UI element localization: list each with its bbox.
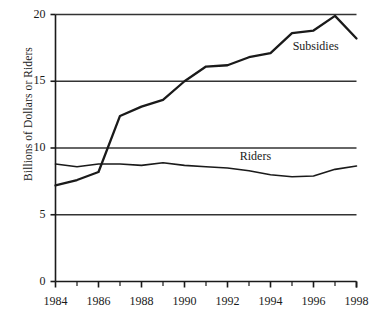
x-tick-label-1994: 1994 <box>251 294 291 309</box>
y-tick-label-0: 0 <box>20 274 46 289</box>
series-line-riders <box>56 163 357 177</box>
y-tick-label-5: 5 <box>20 207 46 222</box>
y-axis-title: Billions of Dollars or Riders <box>22 24 34 204</box>
x-tick-label-1990: 1990 <box>165 294 205 309</box>
y-tick-label-15: 15 <box>20 73 46 88</box>
x-tick-label-1986: 1986 <box>79 294 119 309</box>
y-tick-label-20: 20 <box>20 7 46 22</box>
x-tick-label-1992: 1992 <box>208 294 248 309</box>
y-tick-label-10: 10 <box>20 140 46 155</box>
x-tick-label-1996: 1996 <box>294 294 334 309</box>
x-tick-label-1988: 1988 <box>122 294 162 309</box>
x-tick-label-1998: 1998 <box>337 294 373 309</box>
series-label-riders: Riders <box>240 149 271 164</box>
x-tick-label-1984: 1984 <box>36 294 76 309</box>
series-label-subsidies: Subsidies <box>293 39 339 54</box>
